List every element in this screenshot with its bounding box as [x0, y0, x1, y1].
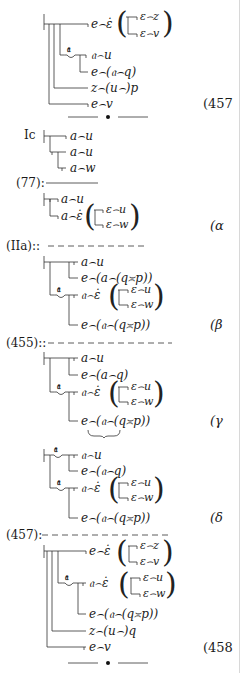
formula-line: e⌢v: [89, 641, 111, 653]
formula-line: 𝔞⌢u: [81, 449, 102, 461]
formula-line: e⌢ε̇: [91, 18, 113, 30]
concavity-letter: 𝔞: [57, 478, 60, 486]
concavity-letter: 𝔞: [57, 382, 60, 390]
formula-line: 𝔞⌢ε̇: [89, 577, 108, 589]
equation-tag: (457: [203, 98, 233, 110]
formula-line: e⌢(𝔞⌢q): [91, 66, 136, 78]
formula-line: a⌢u: [81, 256, 104, 268]
open-paren: (: [84, 201, 96, 231]
concavity-letter: 𝔞: [54, 445, 57, 453]
concavity-letter: 𝔞: [67, 45, 70, 53]
formula-line: a⌢u: [70, 130, 93, 142]
concavity-letter: 𝔞: [57, 285, 60, 293]
formula-line: a⌢ε̇: [61, 210, 83, 222]
inference-label: (457):: [6, 529, 42, 541]
formula-line: z⌢(u⌢)p: [91, 82, 138, 94]
open-paren: (: [108, 281, 120, 311]
open-paren: (: [116, 537, 128, 567]
formula-line: 𝔞⌢u: [91, 49, 112, 61]
concavity-letter: 𝔞: [65, 573, 68, 581]
equation-tag: (δ: [210, 512, 223, 524]
inference-label: (455)::: [6, 337, 46, 349]
formula-line: ε⌢z: [140, 540, 159, 552]
open-paren: (: [116, 8, 128, 38]
inference-label: (77):: [16, 177, 45, 189]
formula-line: 𝔞⌢ε̇: [81, 482, 100, 494]
formula-line: e⌢ε̇: [89, 545, 111, 557]
formula-line: e⌢(𝔞⌢(q≍p)): [89, 608, 158, 620]
formula-line: ε⌢v: [140, 28, 159, 40]
formula-line: ε⌢w: [131, 299, 153, 311]
rule-label: Ic: [24, 129, 35, 141]
formula-line: 𝔞⌢ε̇: [81, 386, 100, 398]
formula-line: e⌢(𝔞⌢(q≍p)): [81, 319, 150, 331]
formula-line: ε⌢w: [131, 492, 153, 504]
formula-line: e⌢v: [91, 98, 113, 110]
formula-line: ε⌢u: [143, 572, 163, 584]
formula-line: ε⌢u: [131, 284, 151, 296]
equation-tag: (γ: [210, 415, 223, 427]
close-paren: ): [129, 201, 141, 231]
bullet-top: [106, 115, 110, 119]
open-paren: (: [108, 474, 120, 504]
formula-line: ε⌢u: [106, 204, 126, 216]
close-paren: ): [153, 474, 165, 504]
formula-line: ε⌢w: [143, 588, 165, 600]
equation-tag: (458: [203, 642, 233, 654]
equation-tag: (β: [210, 319, 223, 331]
formula-line: ε⌢u: [131, 477, 151, 489]
formula-line: a⌢u: [81, 352, 104, 364]
formula-line: ε⌢w: [106, 219, 128, 231]
close-paren: ): [153, 281, 165, 311]
page-edge-divider: [239, 0, 240, 673]
formula-line: ε⌢w: [131, 396, 153, 408]
formula-line: e⌢(a⌢q): [81, 369, 128, 381]
formula-line: ε⌢v: [140, 556, 159, 568]
formula-line: e⌢(𝔞⌢(q≍p)): [81, 415, 150, 427]
close-paren: ): [165, 569, 177, 599]
formula-line: e⌢(𝔞⌢(q≍p)): [81, 512, 150, 524]
close-paren: ): [162, 8, 174, 38]
formula-line: a⌢w: [70, 162, 95, 174]
formula-line: a⌢u: [61, 193, 84, 205]
bullet-bottom: [106, 661, 110, 665]
equation-tag: (α: [210, 220, 224, 232]
open-paren: (: [118, 569, 130, 599]
close-paren: ): [162, 537, 174, 567]
open-paren: (: [108, 378, 120, 408]
formula-line: 𝔞⌢ε̇: [81, 289, 100, 301]
formula-line: a⌢u: [70, 146, 93, 158]
formula-line: ε⌢z: [140, 11, 159, 23]
formula-line: ε⌢u: [131, 381, 151, 393]
formula-line: z⌢(u⌢)q: [89, 625, 136, 637]
inference-label: (IIa)::: [6, 240, 40, 252]
close-paren: ): [153, 378, 165, 408]
